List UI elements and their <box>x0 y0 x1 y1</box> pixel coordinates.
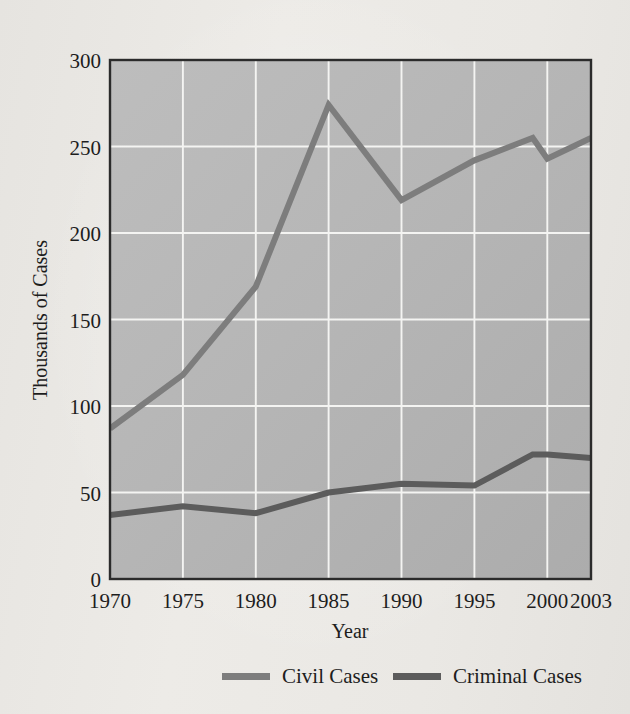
legend-swatch-civil-cases <box>222 673 270 680</box>
x-tick-label-2003: 2003 <box>570 589 612 613</box>
x-axis-title: Year <box>332 620 369 642</box>
y-tick-label-100: 100 <box>70 395 102 419</box>
x-tick-label-2000: 2000 <box>526 589 568 613</box>
y-tick-label-200: 200 <box>70 222 102 246</box>
y-tick-label-300: 300 <box>70 49 102 73</box>
x-tick-label-1975: 1975 <box>162 589 204 613</box>
figure-container: 300 250 200 150 100 50 0 Thousands of Ca… <box>0 0 630 714</box>
x-tick-label-1995: 1995 <box>453 589 495 613</box>
legend-entry-civil-cases[interactable]: Civil Cases <box>222 664 378 688</box>
y-tick-label-50: 50 <box>80 482 101 506</box>
x-axis-tick-labels: 1970 1975 1980 1985 1990 1995 2000 2003 <box>89 589 612 613</box>
x-tick-label-1985: 1985 <box>308 589 350 613</box>
x-tick-label-1980: 1980 <box>235 589 277 613</box>
x-tick-label-1970: 1970 <box>89 589 131 613</box>
y-tick-label-250: 250 <box>70 136 102 160</box>
y-axis-title: Thousands of Cases <box>29 240 51 400</box>
y-axis-tick-labels: 300 250 200 150 100 50 0 <box>70 49 102 592</box>
legend-label-criminal-cases: Criminal Cases <box>453 664 582 688</box>
chart-legend: Civil Cases Criminal Cases <box>222 664 582 688</box>
chart-canvas: 300 250 200 150 100 50 0 Thousands of Ca… <box>0 0 630 714</box>
x-tick-label-1990: 1990 <box>381 589 423 613</box>
legend-entry-criminal-cases[interactable]: Criminal Cases <box>393 664 582 688</box>
legend-label-civil-cases: Civil Cases <box>282 664 378 688</box>
legend-swatch-criminal-cases <box>393 673 441 680</box>
line-chart: 300 250 200 150 100 50 0 Thousands of Ca… <box>0 0 630 714</box>
y-tick-label-150: 150 <box>70 309 102 333</box>
